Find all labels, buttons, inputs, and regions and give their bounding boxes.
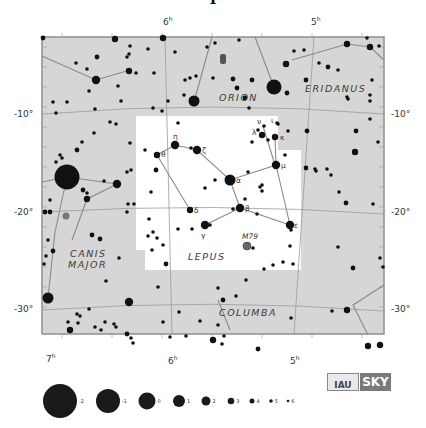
star <box>126 202 130 206</box>
star <box>87 89 91 93</box>
star <box>155 236 159 240</box>
star-label: ε <box>294 221 298 230</box>
star <box>302 48 306 52</box>
star <box>164 262 169 267</box>
star <box>119 99 123 103</box>
star-label: η <box>173 132 178 141</box>
star <box>244 278 248 282</box>
star <box>283 153 287 157</box>
star-label: μ <box>281 161 286 170</box>
legend-star-icon <box>173 395 185 407</box>
star <box>305 129 310 134</box>
star <box>210 337 216 343</box>
star <box>99 328 103 332</box>
star <box>314 169 318 173</box>
iau-logo: IAU <box>327 373 359 391</box>
star <box>54 160 58 164</box>
legend-magnitude: 6 <box>291 398 294 404</box>
star <box>194 74 198 78</box>
star <box>58 153 62 157</box>
star <box>234 294 238 298</box>
star <box>134 71 138 75</box>
star <box>325 167 329 171</box>
star <box>150 248 154 252</box>
star <box>42 262 46 266</box>
legend-star-icon <box>139 393 156 410</box>
star <box>262 267 266 271</box>
star <box>203 186 207 190</box>
star <box>161 320 165 324</box>
legend-star-icon <box>96 389 120 413</box>
star <box>281 260 285 264</box>
star <box>182 93 186 97</box>
star <box>74 61 78 65</box>
star <box>213 178 217 182</box>
star <box>154 168 159 173</box>
star <box>189 96 200 107</box>
dec-label: -10° <box>14 109 33 119</box>
star <box>188 76 192 80</box>
star <box>368 99 372 103</box>
star <box>160 109 164 113</box>
star <box>246 170 250 174</box>
star <box>85 67 89 71</box>
star <box>102 179 106 183</box>
constellation-name: ORION <box>219 92 258 103</box>
star <box>231 77 236 82</box>
star <box>255 212 259 216</box>
legend-star-icon <box>287 400 290 403</box>
star <box>75 148 80 153</box>
star <box>41 36 46 41</box>
star <box>193 146 201 154</box>
legend-magnitude: 0 <box>158 398 161 404</box>
star <box>344 201 349 206</box>
star <box>75 312 79 316</box>
star <box>173 50 177 54</box>
dec-label: -20° <box>14 207 33 217</box>
star <box>103 320 107 324</box>
star <box>250 78 255 83</box>
star <box>125 210 129 214</box>
star-label: α <box>236 176 241 185</box>
star <box>113 180 121 188</box>
star <box>149 190 153 194</box>
star <box>81 188 86 193</box>
star <box>371 202 375 206</box>
star <box>66 320 70 324</box>
star <box>152 71 156 75</box>
star <box>365 36 369 40</box>
legend-magnitude: 2 <box>213 398 216 404</box>
globular-cluster-m79-icon <box>243 242 251 250</box>
star <box>116 84 120 88</box>
star <box>237 38 241 42</box>
star <box>337 190 341 194</box>
star <box>129 336 133 340</box>
star-chart-lepus: ηθζαμλκνιβδγεM79 ORIONERIDANUSCANISMAJOR… <box>0 0 426 428</box>
star <box>161 243 165 247</box>
star <box>267 80 282 95</box>
legend-star-icon <box>269 399 273 403</box>
star <box>336 245 340 249</box>
star <box>222 334 226 338</box>
star <box>317 61 321 65</box>
star <box>292 49 296 53</box>
star <box>351 266 356 271</box>
star <box>275 121 279 125</box>
star <box>368 117 372 121</box>
star <box>93 107 97 111</box>
star <box>92 76 100 84</box>
star <box>189 146 193 150</box>
legend-star-icon <box>202 397 211 406</box>
star <box>51 249 56 254</box>
legend-star-icon <box>43 384 77 418</box>
star <box>266 138 270 142</box>
star <box>112 322 116 326</box>
star <box>336 68 340 72</box>
star <box>43 293 54 304</box>
star <box>258 185 262 189</box>
ra-label: 6h <box>163 15 173 27</box>
legend-magnitude: 1 <box>187 398 190 404</box>
star <box>154 152 160 158</box>
star <box>326 65 331 70</box>
star <box>112 36 118 42</box>
